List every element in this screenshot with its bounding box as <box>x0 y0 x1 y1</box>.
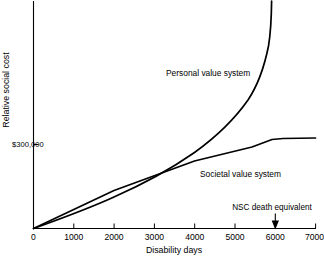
series-label-personal-value-system: Personal value system <box>166 68 250 78</box>
x-axis-tick-label-2000: 2000 <box>105 232 124 242</box>
x-axis-tick-label-4000: 4000 <box>185 232 204 242</box>
x-axis-title: Disability days <box>146 245 203 255</box>
x-axis-tick-label-7000: 7000 <box>305 232 324 242</box>
x-axis-tick-label-0: 0 <box>31 232 36 242</box>
annotation-nsc-label: NSC death equivalent <box>232 203 312 212</box>
x-axis-tick-label-6000: 6000 <box>266 232 285 242</box>
y-axis-title: Relative social cost <box>1 52 11 128</box>
x-axis-tick-label-5000: 5000 <box>225 232 244 242</box>
x-axis-tick-label-1000: 1000 <box>64 232 83 242</box>
x-axis-tick-label-3000: 3000 <box>145 232 164 242</box>
relative-social-cost-chart: $300,000 Relative social cost 0 1000 200… <box>0 0 324 257</box>
series-label-societal-value-system: Societal value system <box>200 169 281 179</box>
chart-figure: $300,000 Relative social cost 0 1000 200… <box>0 0 324 257</box>
y-axis-tick-label-300000: $300,000 <box>12 140 44 149</box>
